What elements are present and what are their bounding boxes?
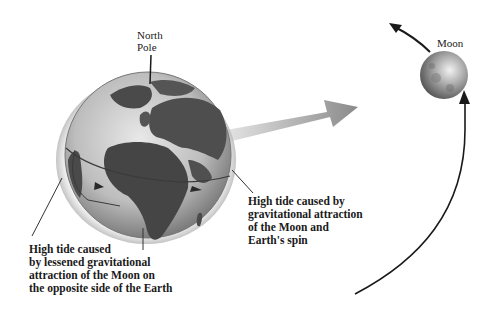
north-pole-line-2: Pole: [137, 41, 163, 53]
near-tide-line-2: gravitational attraction: [248, 208, 363, 221]
moon-label: Moon: [437, 37, 463, 49]
earth-globe: [65, 72, 231, 240]
far-tide-line-3: attraction of the Moon on: [29, 269, 172, 282]
gravity-arrow: [226, 100, 358, 142]
near-tide-line-4: Earth's spin: [248, 234, 363, 247]
far-tide-line-2: by lessened gravitational: [29, 256, 172, 269]
north-pole-line-1: North: [137, 29, 163, 41]
north-pole-pointer: [150, 55, 151, 84]
near-tide-pointer: [232, 170, 253, 193]
far-tide-line-1: High tide caused: [29, 243, 172, 256]
far-tide-line-4: the opposite side of the Earth: [29, 282, 172, 295]
moon-sphere: [420, 51, 468, 99]
far-high-tide-label: High tide caused by lessened gravitation…: [29, 243, 172, 295]
near-tide-line-3: of the Moon and: [248, 221, 363, 234]
north-pole-label: North Pole: [137, 29, 163, 53]
far-tide-pointer: [32, 178, 62, 236]
near-high-tide-label: High tide caused by gravitational attrac…: [248, 195, 363, 247]
near-tide-line-1: High tide caused by: [248, 195, 363, 208]
moon-label-text: Moon: [437, 37, 463, 49]
